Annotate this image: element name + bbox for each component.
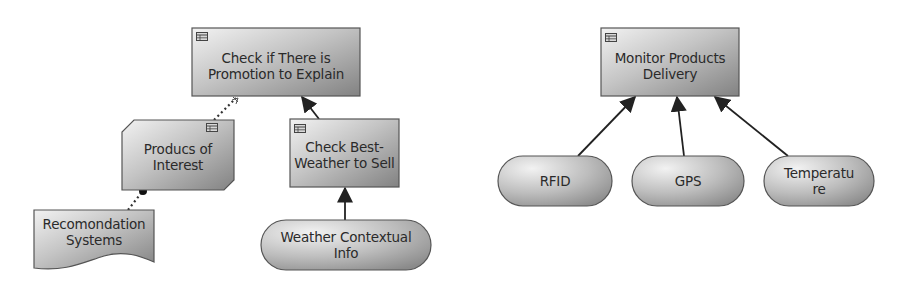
weather-info-label: Weather Contextual Info (261, 220, 431, 270)
edge-temperature-to-monitor[interactable] (715, 97, 788, 156)
temperature-label: Temperatu re (764, 156, 874, 206)
gps-label: GPS (632, 156, 744, 206)
check-weather-label-line2: Weather to Sell (294, 155, 394, 171)
check-weather-label: Check Best- Weather to Sell (288, 130, 401, 180)
monitor-label-line2: Delivery (643, 66, 697, 82)
edge-check-weather-to-goal[interactable] (302, 97, 319, 119)
products-label-line2: Interest (153, 157, 203, 173)
table-icon (207, 124, 218, 132)
edge-rfid-to-monitor[interactable] (578, 97, 635, 156)
monitor-label-line1: Monitor Products (615, 50, 726, 66)
products-label-line1: Producs of (144, 141, 212, 157)
temperature-label-line1: Temperatu (784, 165, 854, 181)
temperature-label-line2: re (812, 181, 825, 197)
recommendation-label-line2: Systems (66, 232, 122, 248)
goal-label-line2: Promotion to Explain (208, 66, 344, 82)
gps-label-text: GPS (675, 173, 702, 189)
rfid-label: RFID (498, 156, 612, 206)
recommendation-label: Recomondation Systems (34, 212, 154, 252)
edge-gps-to-monitor[interactable] (677, 97, 684, 156)
monitor-label: Monitor Products Delivery (601, 36, 739, 96)
goal-label: Check if There is Promotion to Explain (192, 36, 360, 96)
check-weather-label-line1: Check Best- (305, 139, 383, 155)
rfid-label-text: RFID (540, 173, 571, 189)
recommendation-label-line1: Recomondation (43, 216, 146, 232)
products-label: Producs of Interest (122, 132, 234, 182)
edge-products-to-goal[interactable] (214, 97, 238, 120)
goal-label-line1: Check if There is (222, 50, 331, 66)
weather-info-label-line2: Info (334, 245, 359, 261)
weather-info-label-line1: Weather Contextual (281, 229, 412, 245)
